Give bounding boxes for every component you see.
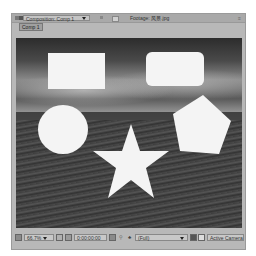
- circle-shape[interactable]: [38, 105, 88, 154]
- safe-zones-icon[interactable]: [56, 234, 63, 241]
- comp-navigator-bar: Comp 1: [12, 22, 245, 31]
- composition-panel: Composition: Comp 1 Footage: 风景.jpg ≡ Co…: [11, 13, 246, 250]
- tab-footage-label: Footage: 风景.jpg: [130, 15, 169, 21]
- resolution-dropdown[interactable]: (Full): [135, 234, 188, 241]
- lock-icon[interactable]: [100, 16, 103, 19]
- resolution-value: (Full): [138, 235, 149, 241]
- tab-composition[interactable]: Composition: Comp 1: [23, 15, 90, 21]
- color-channel-icon[interactable]: ♣: [128, 234, 134, 241]
- viewer-controls-bar: 66.7% 0:00:00:00 ⚲ ♣ (Full) Active Camer…: [12, 232, 245, 244]
- star-shape[interactable]: [92, 124, 170, 200]
- transparency-grid-icon[interactable]: [198, 234, 205, 241]
- view-dropdown[interactable]: Active Camera: [207, 234, 244, 241]
- magnification-dropdown[interactable]: 66.7%: [24, 234, 54, 241]
- chevron-down-icon: [180, 237, 184, 240]
- panel-menu-icon[interactable]: ≡: [238, 15, 241, 21]
- timecode-field[interactable]: 0:00:00:00: [74, 234, 107, 241]
- rounded-rectangle-shape[interactable]: [146, 52, 204, 86]
- composition-viewer[interactable]: [16, 38, 242, 228]
- camera-icon[interactable]: [109, 234, 116, 241]
- tab-footage[interactable]: Footage: 风景.jpg: [108, 15, 240, 21]
- grid-icon[interactable]: [65, 234, 72, 241]
- chevron-down-icon[interactable]: [82, 17, 86, 20]
- zoom-value: 66.7%: [27, 235, 41, 241]
- comp-1-breadcrumb[interactable]: Comp 1: [19, 23, 43, 31]
- show-snapshot-icon[interactable]: ⚲: [119, 234, 125, 241]
- pentagon-shape[interactable]: [173, 94, 233, 156]
- rectangle-shape[interactable]: [48, 53, 105, 89]
- chevron-down-icon: [43, 237, 47, 240]
- region-of-interest-icon[interactable]: [190, 234, 197, 241]
- always-preview-icon[interactable]: [15, 234, 22, 241]
